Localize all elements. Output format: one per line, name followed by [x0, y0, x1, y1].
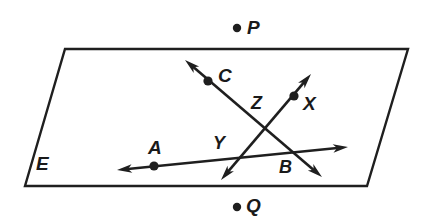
point-label-X: X	[303, 94, 316, 113]
point-label-P: P	[247, 18, 260, 37]
point-label-A: A	[148, 138, 162, 157]
point-label-Q: Q	[246, 196, 261, 215]
point-dot-Q	[233, 203, 241, 211]
point-dot-P	[233, 24, 241, 32]
plane-polygon	[25, 49, 408, 186]
plane-outline-group	[25, 49, 408, 186]
point-dot-C	[203, 76, 212, 85]
point-label-B: B	[279, 158, 292, 176]
geometry-canvas	[0, 0, 430, 224]
point-dot-X	[289, 91, 298, 100]
point-label-Y: Y	[213, 134, 225, 152]
point-dot-A	[149, 161, 158, 170]
point-label-C: C	[218, 66, 232, 85]
geometry-figure: E P C X A Q Z Y B	[0, 0, 430, 224]
point-label-Z: Z	[251, 94, 262, 112]
plane-label-E: E	[36, 154, 49, 173]
